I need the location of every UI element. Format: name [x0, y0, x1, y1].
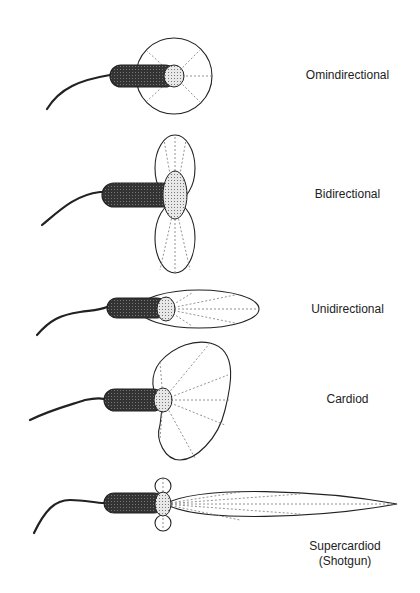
label-bidirectional: Bidirectional [290, 187, 405, 202]
uni-mic-capsule [157, 297, 175, 321]
bidirectional-pattern [42, 135, 195, 273]
label-cardioid: Cardiod [290, 392, 405, 407]
cardioid-pattern [30, 342, 231, 460]
omni-mic-capsule [164, 65, 184, 87]
label-supercardioid: Supercardiod (Shotgun) [285, 539, 405, 569]
label-supercardioid-line2: (Shotgun) [285, 554, 405, 569]
cardioid-mic-capsule [154, 388, 172, 412]
label-unidirectional: Unidirectional [290, 302, 405, 317]
pickup-patterns-diagram [0, 0, 420, 593]
label-supercardioid-line1: Supercardiod [285, 539, 405, 554]
omnidirectional-pattern [47, 38, 212, 114]
label-omnidirectional: Omindirectional [290, 68, 405, 83]
bi-mic-capsule [163, 171, 187, 219]
supercardioid-pattern [34, 478, 397, 533]
unidirectional-pattern [37, 290, 259, 335]
super-mic-capsule [155, 492, 171, 516]
